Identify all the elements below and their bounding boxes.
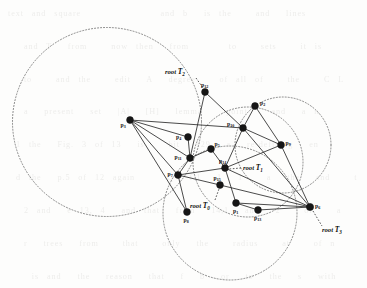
point-node-label: p3 xyxy=(121,122,126,129)
enclosing-circle xyxy=(13,28,202,217)
root-annotation-label: root T1 xyxy=(243,163,263,173)
point-node-label: p6 xyxy=(315,203,320,210)
tree-edge xyxy=(258,207,310,210)
point-node[interactable] xyxy=(255,207,262,214)
tree-edge xyxy=(178,168,225,175)
point-node[interactable] xyxy=(240,125,247,132)
point-node-label: p5 xyxy=(215,141,220,148)
point-node[interactable] xyxy=(278,142,285,149)
root-annotation-label: root T0 xyxy=(190,201,210,211)
point-node[interactable] xyxy=(233,200,240,207)
point-node[interactable] xyxy=(222,165,229,172)
point-node-label: p9 xyxy=(286,140,291,147)
point-node-label: p13 xyxy=(254,215,261,222)
forest-diagram: p3p12p2p10p4p9p5p11p14p7p15p1p8p13p6 roo… xyxy=(0,0,367,288)
point-node[interactable] xyxy=(175,172,182,179)
point-node[interactable] xyxy=(217,182,224,189)
point-node-label: p14 xyxy=(219,158,226,165)
point-node-label: p2 xyxy=(260,100,265,107)
root-leader-line xyxy=(313,211,322,226)
enclosing-circle xyxy=(193,107,303,217)
tree-edge xyxy=(178,175,187,212)
root-leader-line xyxy=(229,168,241,169)
tree-edge xyxy=(225,168,236,203)
tree-edge xyxy=(130,120,178,175)
tree-edge xyxy=(205,92,243,128)
point-node[interactable] xyxy=(127,117,134,124)
point-node[interactable] xyxy=(187,155,194,162)
point-node-label: p1 xyxy=(233,208,238,215)
tree-edge xyxy=(243,106,255,128)
point-nodes-layer xyxy=(127,89,314,216)
point-node[interactable] xyxy=(306,203,313,210)
point-node-label: p15 xyxy=(214,175,221,182)
point-node-label: p7 xyxy=(168,171,173,178)
point-node-label: p12 xyxy=(201,82,208,89)
figure-canvas: text and square and b is the and lines a… xyxy=(0,0,367,288)
enclosing-circles-layer xyxy=(13,28,332,281)
point-node-label: p11 xyxy=(175,154,182,161)
point-node[interactable] xyxy=(208,146,215,153)
tree-edges-layer xyxy=(130,92,310,212)
point-node-label: p8 xyxy=(184,217,189,224)
point-node[interactable] xyxy=(184,209,191,216)
point-node[interactable] xyxy=(185,134,192,141)
point-node[interactable] xyxy=(252,103,259,110)
root-annotation-label: root T3 xyxy=(322,225,342,235)
root-annotation-label: root T2 xyxy=(165,67,185,77)
root-leader-line xyxy=(215,189,219,200)
point-node[interactable] xyxy=(202,89,209,96)
